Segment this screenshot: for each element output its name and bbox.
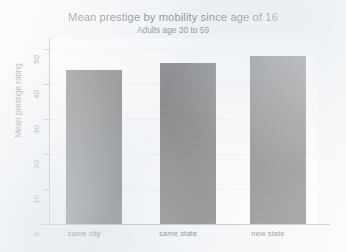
chart-title: Mean prestige by mobility since age of 1… (0, 11, 346, 24)
y-tick-mark-20 (44, 154, 50, 155)
y-tick-label-30: 30 (32, 119, 41, 141)
y-axis-title: Mean prestige rating (14, 41, 23, 161)
chart-subtitle: Adults age 30 to 59 (0, 25, 346, 36)
bar-texture (66, 70, 122, 224)
y-tick-label-10: 10 (32, 189, 41, 211)
y-tick-label-50: 50 (32, 49, 41, 71)
chart-title-block: Mean prestige by mobility since age of 1… (0, 11, 346, 36)
y-tick-label-20: 20 (32, 154, 41, 176)
bar-same-state (160, 63, 216, 224)
bar-chart-figure: Mean prestige by mobility since age of 1… (0, 0, 346, 252)
gridline-50 (50, 49, 318, 50)
y-tick-mark-10 (44, 189, 50, 190)
plot-area (50, 38, 318, 224)
x-category-label-same-city: same city (36, 229, 132, 238)
x-category-label-same-state: same state (130, 229, 226, 238)
x-axis-line (40, 224, 330, 225)
y-tick-label-40: 40 (32, 84, 41, 106)
y-tick-mark-50 (44, 49, 50, 50)
bar-texture (250, 56, 306, 224)
y-tick-mark-40 (44, 84, 50, 85)
y-axis-line (49, 38, 50, 225)
bar-same-city (66, 70, 122, 224)
bar-texture (160, 63, 216, 224)
y-tick-mark-30 (44, 119, 50, 120)
x-category-label-new-state: new state (220, 229, 316, 238)
bar-new-state (250, 56, 306, 224)
y-tick-mark-0 (44, 224, 50, 225)
